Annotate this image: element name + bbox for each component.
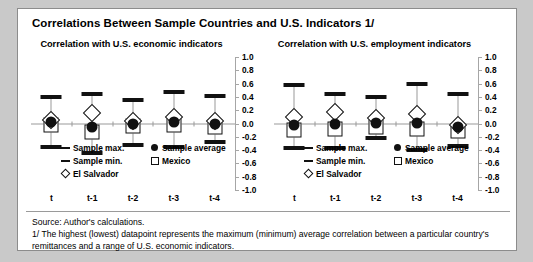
y-axis-tick [478,124,482,125]
y-axis-tick-label: 0.2 [485,105,497,115]
footer-divider [26,211,510,212]
circle-icon [392,144,403,152]
legend-label: Mexico [162,156,190,166]
y-axis-tick-label: -1.0 [242,185,256,195]
y-axis-tick [478,97,482,98]
sample-max-marker [325,92,346,96]
x-axis-tick-label: t-2 [371,193,382,203]
legend-employment: Sample max. Sample min. El Salvador Samp… [289,141,479,183]
sample-max-marker [366,95,387,99]
legend-item-mexico: Mexico [149,154,226,167]
y-axis-tick-label: -0.8 [485,172,499,182]
y-axis-tick [235,190,239,191]
page-title: Correlations Between Sample Countries an… [32,17,374,29]
figure-panel: Correlations Between Sample Countries an… [17,8,517,251]
legend-label: El Salvador [73,169,119,179]
legend-column-right: Sample average Mexico [149,141,226,167]
legend-column-right: Sample average Mexico [392,141,469,167]
sample-max-marker [163,90,184,94]
x-axis-tick-label: t [50,193,53,203]
sample-average-marker [411,117,422,128]
y-axis-tick [478,110,482,111]
y-axis-tick-label: -0.6 [242,158,256,168]
legend-label: El Salvador [316,169,362,179]
legend-item-sample-max: Sample max. [303,141,367,154]
legend-label: Sample average [405,143,469,153]
chart-panel-employment: Correlation with U.S. employment indicat… [271,39,504,214]
legend-label: Sample min. [316,156,365,166]
y-axis-tick-label: -0.2 [485,132,499,142]
figure-footer: Source: Author's calculations. 1/ The hi… [32,216,502,253]
y-axis-tick-label: 0.0 [485,119,497,129]
legend-label: Sample average [162,143,226,153]
x-axis-tick [314,121,315,126]
dash-icon [303,147,314,149]
legend-economic: Sample max. Sample min. El Salvador Samp… [46,141,236,183]
y-axis-employment: 1.00.80.60.40.20.0-0.2-0.4-0.6-0.8-1.0 [478,57,504,190]
x-axis-tick-label: t [293,193,296,203]
dash-icon [60,160,71,162]
sample-max-marker [82,92,103,96]
x-axis-tick [355,121,356,126]
legend-item-el-salvador: El Salvador [303,167,367,180]
y-axis-tick [235,84,239,85]
y-axis-tick-label: -0.4 [485,145,499,155]
x-axis-tick [153,121,154,126]
sample-average-marker [371,117,382,128]
sample-max-marker [123,98,144,102]
sample-average-marker [168,116,179,127]
y-axis-tick [478,137,482,138]
legend-item-mexico: Mexico [392,154,469,167]
x-axis-tick [437,121,438,126]
sample-average-marker [128,118,139,129]
x-axis-tick-label: t-2 [128,193,139,203]
x-axis-tick-label: t-4 [452,193,463,203]
legend-label: Mexico [405,156,433,166]
x-axis-tick-label: t-3 [169,193,180,203]
diamond-icon [303,170,314,177]
source-text: Source: Author's calculations. [32,216,502,228]
legend-label: Sample max. [73,143,124,153]
square-icon [149,157,160,165]
dash-icon [60,147,71,149]
y-axis-economic: 1.00.80.60.40.20.0-0.2-0.4-0.6-0.8-1.0 [235,57,261,190]
footnote-text: 1/ The highest (lowest) datapoint repres… [32,228,502,252]
circle-icon [149,144,160,152]
sample-average-marker [452,121,463,132]
y-axis-tick-label: 0.8 [242,65,254,75]
x-axis-tick-label: t-1 [87,193,98,203]
legend-item-sample-max: Sample max. [60,141,124,154]
y-axis-tick-label: -0.8 [242,172,256,182]
y-axis-tick-label: -0.6 [485,158,499,168]
y-axis-tick [235,110,239,111]
x-axis-tick-label: t-3 [412,193,423,203]
sample-max-marker [204,94,225,98]
y-axis-tick-label: 0.8 [485,65,497,75]
el-salvador-marker [83,104,101,122]
sample-max-marker [447,92,468,96]
x-axis-tick-label: t-4 [209,193,220,203]
y-axis-tick-label: 0.0 [242,119,254,129]
sample-average-marker [209,118,220,129]
y-axis-tick [478,190,482,191]
legend-item-sample-min: Sample min. [303,154,367,167]
x-axis-labels-economic: tt-1t-2t-3t-4 [31,193,235,207]
legend-item-el-salvador: El Salvador [60,167,124,180]
chart-title-economic: Correlation with U.S. economic indicator… [28,39,235,49]
y-axis-tick-label: 0.4 [485,92,497,102]
y-axis-tick [478,70,482,71]
chart-title-employment: Correlation with U.S. employment indicat… [271,39,478,49]
legend-column-left: Sample max. Sample min. El Salvador [60,141,124,180]
dash-icon [303,160,314,162]
y-axis-tick-label: 1.0 [242,52,254,62]
y-axis-tick [478,84,482,85]
y-axis-tick-label: -0.4 [242,145,256,155]
y-axis-tick-label: 1.0 [485,52,497,62]
y-axis-tick-label: -1.0 [485,185,499,195]
x-axis-labels-employment: tt-1t-2t-3t-4 [274,193,478,207]
y-axis-tick [235,70,239,71]
chart-panel-economic: Correlation with U.S. economic indicator… [28,39,261,214]
y-axis-tick-label: 0.2 [242,105,254,115]
legend-label: Sample max. [316,143,367,153]
y-axis-tick [235,57,239,58]
